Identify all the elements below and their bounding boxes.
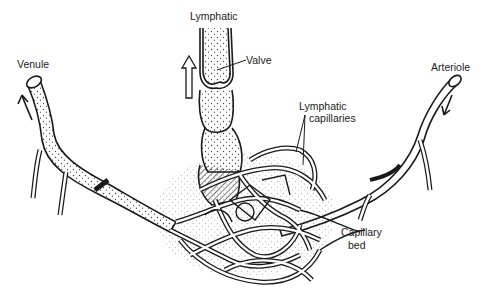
label-capillary-bed-line2: bed (348, 239, 366, 251)
label-lymphatic-capillaries-line2: capillaries (309, 112, 356, 124)
lymphatic-flow-arrow-icon (182, 56, 196, 98)
label-venule: Venule (17, 58, 49, 70)
label-lymphatic: Lymphatic (190, 10, 237, 22)
label-capillary-bed-line1: Capillary (341, 226, 382, 238)
label-lymphatic-capillaries-line1: Lymphatic (299, 100, 346, 112)
label-arteriole: Arteriole (431, 61, 470, 73)
label-valve: Valve (246, 54, 272, 66)
venule-vessel (25, 74, 176, 232)
lymphatic-capillaries-pointer-lines (296, 115, 305, 165)
lymphatic-capillary-diagram: Lymphatic Valve Venule Arteriole Lymphat… (0, 0, 488, 303)
venule-flow-arrow-icon (18, 95, 32, 120)
diagram-artwork (0, 0, 488, 303)
capillary-bed-network (155, 148, 365, 282)
